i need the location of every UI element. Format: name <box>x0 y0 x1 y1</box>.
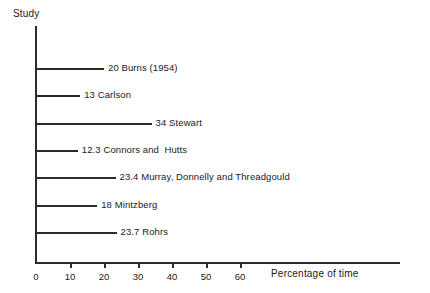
x-axis-tick <box>172 262 174 268</box>
x-axis-tick-label: 10 <box>58 271 82 282</box>
bar <box>36 150 78 152</box>
bar-label: 23.7 Rohrs <box>121 227 168 237</box>
x-axis-tick-label: 40 <box>160 271 184 282</box>
bar <box>36 177 116 179</box>
x-axis-tick <box>138 262 140 268</box>
bar-label: 12.3 Connors and Hutts <box>82 145 187 155</box>
x-axis-tick <box>240 262 242 268</box>
bar-chart: Study 20 Burns (1954)13 Carlson34 Stewar… <box>0 0 430 293</box>
x-axis-tick-label: 60 <box>228 271 252 282</box>
bar-label: 13 Carlson <box>84 90 131 100</box>
bar-label: 23.4 Murray, Donnelly and Threadgould <box>120 172 290 182</box>
x-axis-title: Percentage of time <box>271 268 359 279</box>
x-axis-tick-label: 30 <box>126 271 150 282</box>
x-axis-tick-label: 20 <box>92 271 116 282</box>
y-axis-title: Study <box>13 8 40 19</box>
bar-label: 20 Burns (1954) <box>108 63 178 73</box>
x-axis-tick-label: 0 <box>24 271 48 282</box>
bar <box>36 68 104 70</box>
bar-label: 34 Stewart <box>156 118 202 128</box>
x-axis-tick <box>104 262 106 268</box>
x-axis-tick <box>70 262 72 268</box>
bar <box>36 95 80 97</box>
x-axis-tick-label: 50 <box>194 271 218 282</box>
bar <box>36 232 117 234</box>
bar <box>36 123 152 125</box>
y-axis-line <box>35 26 37 264</box>
bar <box>36 205 97 207</box>
bar-label: 18 Mintzberg <box>101 200 157 210</box>
x-axis-tick <box>206 262 208 268</box>
x-axis-line <box>35 262 400 264</box>
